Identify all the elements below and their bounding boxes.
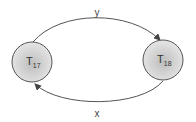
node-t17: T17 [12, 42, 52, 82]
node-t18: T18 [143, 40, 183, 80]
state-diagram: y x T17 T18 [0, 0, 196, 122]
edge-x [35, 81, 163, 102]
node-t18-subscript: 18 [164, 60, 172, 67]
edge-label-x: x [95, 108, 100, 119]
edge-label-y: y [95, 7, 100, 18]
node-t17-subscript: 17 [33, 62, 41, 69]
edge-y [33, 18, 160, 42]
